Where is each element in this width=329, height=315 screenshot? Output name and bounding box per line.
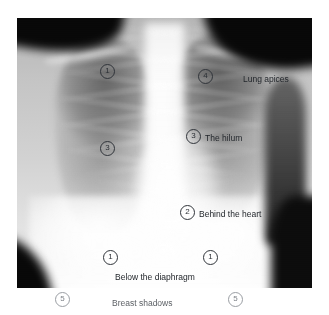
annotation-marker-3-hilum-right: 3 <box>186 129 201 144</box>
label-breast-shadows: Breast shadows <box>112 298 172 308</box>
annotation-marker-5-breast-right: 5 <box>228 292 243 307</box>
annotation-marker-2-behind-heart: 2 <box>180 205 195 220</box>
film-grain-overlay <box>17 18 312 288</box>
annotation-marker-1-diaphragm-right: 1 <box>203 250 218 265</box>
label-the-hilum: The hilum <box>205 133 242 143</box>
annotation-marker-1-apex-left: 1 <box>100 64 115 79</box>
annotation-marker-3-hilum-left: 3 <box>100 141 115 156</box>
annotated-chest-xray-figure: 1 4 3 3 2 1 1 5 5 Lung apices The hilum … <box>0 0 329 315</box>
annotation-marker-5-breast-left: 5 <box>55 292 70 307</box>
label-behind-the-heart: Behind the heart <box>199 209 261 219</box>
chest-radiograph-image <box>17 18 312 288</box>
label-lung-apices: Lung apices <box>243 74 289 84</box>
annotation-marker-4-apex-right: 4 <box>198 69 213 84</box>
annotation-marker-1-diaphragm-left: 1 <box>103 250 118 265</box>
label-below-the-diaphragm: Below the diaphragm <box>115 272 195 282</box>
